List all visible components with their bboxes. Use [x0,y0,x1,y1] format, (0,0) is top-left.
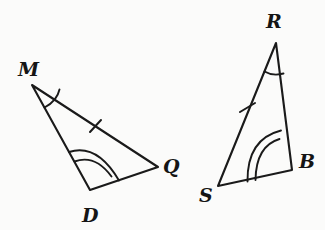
triangle-mdq-outline [32,85,158,190]
vertex-label-b: B [298,150,315,172]
geometry-figure: M D Q R S B [0,0,325,230]
vertex-label-r: R [265,10,282,32]
vertex-label-s: S [199,184,213,206]
triangle-rsb-outline [218,43,292,186]
triangle-MDQ: M D Q [17,58,180,226]
figure-canvas: M D Q R S B [0,0,325,230]
triangle-RSB: R S B [199,10,315,206]
vertex-label-d: D [81,204,99,226]
vertex-label-q: Q [163,155,180,177]
tick-mark-mq [90,120,101,132]
vertex-label-m: M [17,58,40,80]
